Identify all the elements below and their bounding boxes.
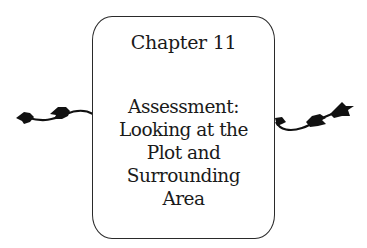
title-line: Assessment:	[93, 95, 274, 118]
title-line: Looking at the	[93, 118, 274, 141]
title-line: Surrounding	[93, 164, 274, 187]
chapter-title: Assessment: Looking at the Plot and Surr…	[93, 95, 274, 210]
chapter-number: Chapter 11	[93, 31, 274, 53]
leaf-1	[16, 112, 34, 124]
chapter-title-page: Chapter 11 Assessment: Looking at the Pl…	[0, 0, 367, 248]
title-line: Area	[93, 187, 274, 210]
chapter-card: Chapter 11 Assessment: Looking at the Pl…	[92, 16, 275, 239]
title-line: Plot and	[93, 141, 274, 164]
leaf-1	[306, 114, 326, 127]
leaf-2	[50, 107, 70, 119]
leaf-2	[330, 102, 354, 118]
left-vine-ornament-icon	[14, 100, 94, 140]
right-vine-ornament-icon	[274, 96, 356, 138]
